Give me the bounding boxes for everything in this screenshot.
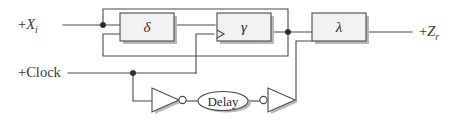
output-port-subscript: r bbox=[435, 31, 439, 42]
wire-clock-to-inverter1 bbox=[133, 73, 152, 101]
wire-clock-to-gamma bbox=[196, 34, 214, 73]
clock-port-label: +Clock bbox=[18, 65, 61, 80]
inverter-1[interactable] bbox=[152, 88, 186, 114]
diagram-canvas: +Xi +Clock +Zr δ γ λ Delay bbox=[0, 0, 464, 123]
input-port-symbol: X bbox=[26, 16, 35, 32]
input-junction-dot bbox=[100, 22, 105, 27]
output-port-label: +Zr bbox=[419, 24, 439, 42]
delta-block-label: δ bbox=[120, 20, 174, 35]
inverter-2[interactable] bbox=[260, 88, 298, 114]
wire-inverter2-to-lambda bbox=[296, 41, 312, 101]
inverter-1-bubble-icon bbox=[179, 96, 186, 103]
gamma-block-label: γ bbox=[217, 20, 271, 35]
delay-element-label: Delay bbox=[198, 95, 248, 108]
gamma-output-junction-dot bbox=[285, 29, 290, 34]
lambda-block-label: λ bbox=[312, 20, 366, 35]
clock-junction-dot bbox=[130, 70, 135, 75]
input-port-label: +Xi bbox=[18, 17, 38, 35]
inverter-2-bubble-icon bbox=[260, 96, 267, 103]
input-port-subscript: i bbox=[35, 24, 38, 35]
output-port-sign: + bbox=[419, 23, 427, 39]
input-port-sign: + bbox=[18, 16, 26, 32]
